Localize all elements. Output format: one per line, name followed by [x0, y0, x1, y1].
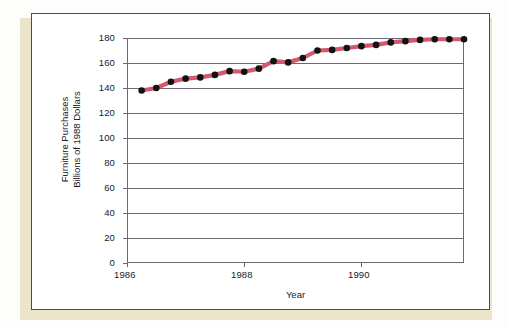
x-axis-title: Year: [127, 289, 464, 300]
x-tick-mark: [244, 263, 245, 267]
data-point-marker: [417, 37, 424, 44]
y-tick-label: 20: [75, 232, 115, 243]
data-point-marker: [387, 39, 394, 46]
series-markers: [138, 36, 467, 94]
data-point-marker: [329, 47, 336, 54]
data-point-marker: [182, 75, 189, 82]
x-tick-mark: [361, 263, 362, 267]
y-tick-label: 180: [75, 32, 115, 43]
y-tick-label: 40: [75, 207, 115, 218]
data-point-marker: [285, 59, 292, 66]
data-point-marker: [241, 68, 248, 75]
data-point-marker: [461, 36, 468, 43]
series-line: [142, 39, 464, 90]
data-point-marker: [226, 68, 233, 75]
data-point-marker: [270, 58, 277, 65]
y-tick-label: 120: [75, 107, 115, 118]
y-tick-label: 100: [75, 132, 115, 143]
y-tick-label: 60: [75, 182, 115, 193]
y-tick-label: 0: [75, 257, 115, 268]
data-series-layer: [127, 38, 464, 263]
data-point-marker: [446, 36, 453, 43]
data-point-marker: [168, 78, 175, 85]
data-point-marker: [197, 74, 204, 81]
data-point-marker: [256, 65, 263, 72]
y-tick-label: 160: [75, 57, 115, 68]
data-point-marker: [300, 55, 307, 62]
x-tick-mark: [127, 263, 128, 267]
data-point-marker: [314, 47, 321, 54]
data-point-marker: [431, 36, 438, 43]
x-tick-label: 1990: [348, 269, 370, 280]
y-tick-label: 140: [75, 82, 115, 93]
data-point-marker: [373, 42, 380, 49]
y-axis-title-line-1: Furniture Purchases: [59, 50, 71, 230]
data-point-marker: [402, 38, 409, 45]
data-point-marker: [343, 45, 350, 52]
y-tick-label: 80: [75, 157, 115, 168]
x-tick-label: 1986: [114, 269, 136, 280]
data-point-marker: [153, 85, 160, 92]
x-tick-label: 1988: [231, 269, 253, 280]
data-point-marker: [138, 87, 145, 94]
line-chart: Furniture Purchases Billions of 1988 Dol…: [0, 0, 508, 327]
data-point-marker: [358, 43, 365, 50]
data-point-marker: [212, 72, 219, 79]
